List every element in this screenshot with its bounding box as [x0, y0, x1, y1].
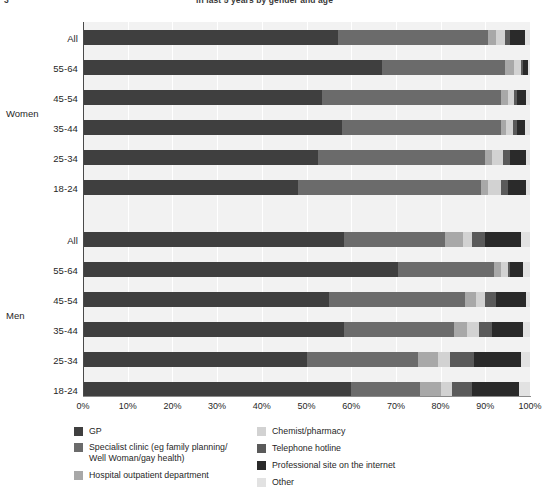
- legend-item[interactable]: Specialist clinic (eg family planning/ W…: [74, 442, 227, 464]
- legend-item[interactable]: Professional site on the internet: [257, 460, 395, 471]
- y-axis-label-men-18-24: 18-24: [0, 385, 78, 396]
- bar-segment: [454, 322, 467, 337]
- y-axis-line: [83, 22, 84, 397]
- gridline: [351, 22, 352, 397]
- bar-segment: [521, 232, 530, 247]
- gridline: [307, 22, 308, 397]
- x-tick-10: 10%: [119, 401, 137, 411]
- legend-item[interactable]: Hospital outpatient department: [74, 470, 209, 481]
- bar-men-55-64: [83, 262, 530, 277]
- y-axis-label-men-35-44: 35-44: [0, 325, 78, 336]
- bar-segment: [503, 150, 510, 165]
- bar-women-45-54: [83, 90, 530, 105]
- legend-item[interactable]: Chemist/pharmacy: [257, 426, 345, 437]
- bar-segment: [514, 60, 521, 75]
- bar-segment: [83, 120, 342, 135]
- legend-swatch-icon: [257, 444, 266, 453]
- bar-segment: [398, 262, 494, 277]
- bar-men-25-34: [83, 352, 530, 367]
- bar-men-35-44: [83, 322, 530, 337]
- legend-label: Specialist clinic (eg family planning/ W…: [89, 442, 227, 464]
- legend-item[interactable]: GP: [74, 426, 102, 437]
- legend-swatch-icon: [257, 427, 266, 436]
- legend-item[interactable]: Other: [257, 477, 294, 488]
- bar-segment: [298, 180, 481, 195]
- x-tick-0: 0%: [76, 401, 89, 411]
- gridline: [396, 22, 397, 397]
- bar-segment: [494, 262, 501, 277]
- legend-swatch-icon: [257, 478, 266, 487]
- y-axis-label-women-All: All: [0, 33, 78, 44]
- bar-segment: [307, 352, 419, 367]
- bar-segment: [344, 322, 454, 337]
- bar-segment: [501, 262, 508, 277]
- bar-segment: [338, 30, 488, 45]
- bar-segment: [474, 352, 521, 367]
- bar-segment: [526, 150, 530, 165]
- bar-segment: [438, 352, 449, 367]
- bar-segment: [485, 232, 521, 247]
- bar-segment: [492, 150, 503, 165]
- bar-segment: [83, 232, 344, 247]
- bar-women-25-34: [83, 150, 530, 165]
- bar-women-35-44: [83, 120, 530, 135]
- bar-segment: [508, 180, 526, 195]
- bar-segment: [318, 150, 486, 165]
- bar-segment: [523, 262, 530, 277]
- y-axis-label-men-All: All: [0, 235, 78, 246]
- x-tick-30: 30%: [208, 401, 226, 411]
- legend-swatch-icon: [74, 443, 83, 452]
- bar-segment: [351, 382, 420, 397]
- bar-segment: [83, 30, 338, 45]
- y-axis-label-women-35-44: 35-44: [0, 123, 78, 134]
- x-tick-70: 70%: [387, 401, 405, 411]
- bar-segment: [83, 150, 318, 165]
- bar-segment: [526, 292, 530, 307]
- bar-segment: [525, 30, 529, 45]
- gridline: [217, 22, 218, 397]
- bar-segment: [479, 322, 492, 337]
- bar-segment: [420, 382, 440, 397]
- bar-segment: [467, 322, 478, 337]
- bar-segment: [488, 180, 501, 195]
- legend-label: Hospital outpatient department: [89, 470, 209, 481]
- bar-segment: [344, 232, 445, 247]
- x-tick-100: 100%: [518, 401, 541, 411]
- legend-item[interactable]: Telephone hotline: [257, 443, 341, 454]
- legend-label: Telephone hotline: [272, 443, 341, 454]
- bar-men-45-54: [83, 292, 530, 307]
- legend-label: GP: [89, 426, 102, 437]
- bar-women-All: [83, 30, 530, 45]
- bar-segment: [83, 60, 382, 75]
- legend-label: Chemist/pharmacy: [272, 426, 345, 437]
- bar-segment: [329, 292, 465, 307]
- y-axis-label-men-45-54: 45-54: [0, 295, 78, 306]
- bar-segment: [519, 382, 530, 397]
- y-axis-label-women-18-24: 18-24: [0, 183, 78, 194]
- bar-segment: [83, 90, 322, 105]
- bar-men-All: [83, 232, 530, 247]
- legend-label: Other: [272, 477, 294, 488]
- bar-segment: [517, 120, 526, 135]
- chart-legend: GPSpecialist clinic (eg family planning/…: [0, 424, 551, 496]
- y-axis-label-men-25-34: 25-34: [0, 355, 78, 366]
- bar-segment: [492, 322, 523, 337]
- chart-root: 3 in last 5 years by gender and age All5…: [0, 0, 551, 496]
- legend-label: Professional site on the internet: [272, 460, 395, 471]
- y-axis-label-women-55-64: 55-64: [0, 63, 78, 74]
- group-label-women: Women: [6, 108, 52, 119]
- figure-title: in last 5 years by gender and age: [196, 0, 333, 5]
- bar-segment: [465, 292, 476, 307]
- bar-segment: [496, 292, 525, 307]
- bar-segment: [517, 90, 526, 105]
- gridline: [172, 22, 173, 397]
- figure-title-strip: 3 in last 5 years by gender and age: [0, 0, 551, 9]
- bar-segment: [488, 30, 496, 45]
- bar-segment: [526, 90, 530, 105]
- bar-segment: [510, 30, 526, 45]
- bar-segment: [83, 322, 344, 337]
- x-axis-line: [83, 396, 531, 397]
- plot-area: [83, 22, 530, 397]
- bar-segment: [501, 180, 508, 195]
- bar-segment: [506, 120, 513, 135]
